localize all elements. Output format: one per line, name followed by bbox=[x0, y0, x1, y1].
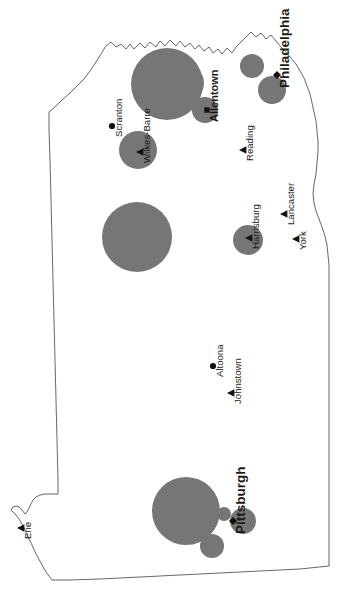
city-philadelphia[interactable]: Philadelphia bbox=[273, 8, 292, 88]
bubble-pittsburgh-e1 bbox=[217, 507, 231, 521]
city-label-altoona: Altoona bbox=[214, 344, 225, 377]
bubble-central-large bbox=[102, 202, 172, 272]
city-label-harrisburg: Harrisburg bbox=[250, 204, 261, 249]
city-label-scranton: Scranton bbox=[113, 99, 124, 137]
city-label-johnstown: Johnstown bbox=[232, 358, 243, 404]
pennsylvania-bubble-map: PhiladelphiaPittsburghAllentownHarrisbur… bbox=[0, 0, 339, 601]
city-label-allentown: Allentown bbox=[208, 69, 220, 122]
city-erie[interactable]: Erie bbox=[17, 522, 33, 539]
bubble-ne-secondary bbox=[168, 65, 204, 101]
city-pittsburgh[interactable]: Pittsburgh bbox=[229, 467, 248, 535]
city-label-pittsburgh: Pittsburgh bbox=[233, 467, 248, 535]
city-label-philadelphia: Philadelphia bbox=[277, 8, 292, 88]
city-label-york: York bbox=[297, 231, 308, 250]
city-label-reading: Reading bbox=[244, 125, 255, 161]
map-canvas: PhiladelphiaPittsburghAllentownHarrisbur… bbox=[0, 0, 339, 601]
city-label-lancaster: Lancaster bbox=[285, 182, 296, 225]
bubble-pittsburgh-s bbox=[200, 534, 224, 558]
bubble-north-small bbox=[240, 54, 264, 78]
city-label-wilkes-barre: Wilkes-Barre bbox=[141, 108, 152, 163]
city-label-erie: Erie bbox=[22, 522, 33, 539]
